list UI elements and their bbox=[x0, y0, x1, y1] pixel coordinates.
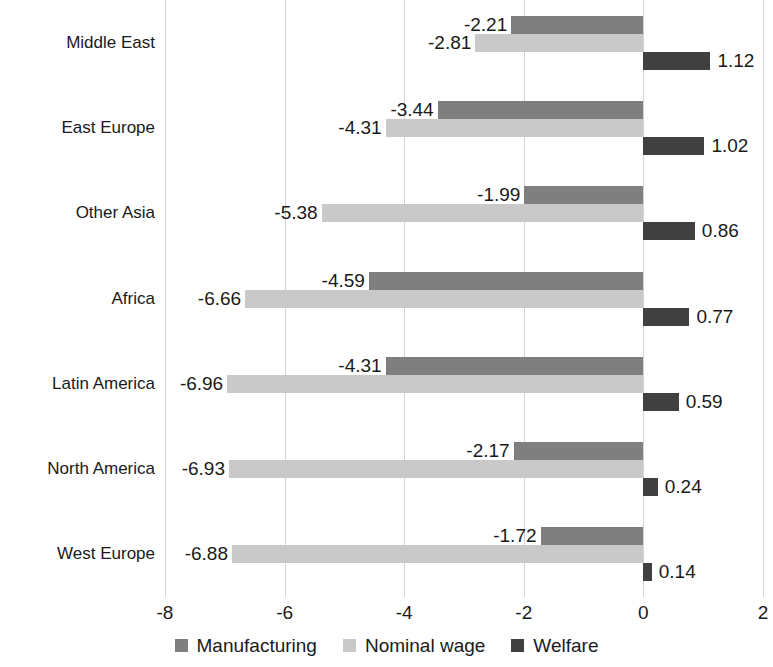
legend-swatch-icon bbox=[343, 639, 356, 652]
legend-item[interactable]: Nominal wage bbox=[343, 636, 485, 655]
x-tick-label: 2 bbox=[733, 603, 773, 622]
bar-nominal-wage bbox=[229, 460, 643, 478]
legend-label: Welfare bbox=[533, 636, 598, 655]
gridline-x-2 bbox=[763, 0, 764, 597]
bar-welfare bbox=[643, 308, 689, 326]
legend-item[interactable]: Welfare bbox=[511, 636, 598, 655]
bar-nominal-wage bbox=[232, 545, 643, 563]
category-label: Middle East bbox=[0, 34, 155, 51]
data-label: -2.21 bbox=[165, 15, 507, 34]
x-tick-label: -4 bbox=[374, 603, 434, 622]
bar-welfare bbox=[643, 137, 704, 155]
data-label: 0.24 bbox=[665, 477, 702, 496]
data-label: -6.96 bbox=[165, 374, 223, 393]
x-tick-label: 0 bbox=[613, 603, 673, 622]
category-label: West Europe bbox=[0, 545, 155, 562]
legend-swatch-icon bbox=[175, 639, 188, 652]
data-label: -6.66 bbox=[165, 289, 241, 308]
data-label: -5.38 bbox=[165, 203, 318, 222]
category-label: East Europe bbox=[0, 119, 155, 136]
legend-label: Nominal wage bbox=[365, 636, 485, 655]
bar-manufacturing bbox=[438, 101, 644, 119]
data-label: 0.59 bbox=[686, 392, 723, 411]
bar-manufacturing bbox=[386, 357, 644, 375]
bar-manufacturing bbox=[369, 272, 643, 290]
data-label: -6.88 bbox=[165, 544, 228, 563]
bar-welfare bbox=[643, 563, 651, 581]
data-label: -4.31 bbox=[165, 118, 382, 137]
bar-nominal-wage bbox=[322, 204, 644, 222]
data-label: 0.86 bbox=[702, 221, 739, 240]
legend-item[interactable]: Manufacturing bbox=[175, 636, 317, 655]
bar-manufacturing bbox=[541, 527, 644, 545]
bar-manufacturing bbox=[514, 442, 644, 460]
x-tick-label: -2 bbox=[494, 603, 554, 622]
bar-manufacturing bbox=[524, 186, 643, 204]
chart-legend: ManufacturingNominal wageWelfare bbox=[0, 630, 773, 660]
legend-swatch-icon bbox=[511, 639, 524, 652]
bar-welfare bbox=[643, 222, 694, 240]
category-label: Latin America bbox=[0, 375, 155, 392]
bar-welfare bbox=[643, 478, 657, 496]
category-label: Africa bbox=[0, 290, 155, 307]
bar-nominal-wage bbox=[475, 34, 643, 52]
data-label: -3.44 bbox=[165, 100, 434, 119]
bar-nominal-wage bbox=[245, 290, 643, 308]
bar-welfare bbox=[643, 52, 710, 70]
gridline-x-0 bbox=[643, 0, 644, 597]
x-tick-label: -8 bbox=[135, 603, 195, 622]
data-label: 0.14 bbox=[659, 562, 696, 581]
data-label: -6.93 bbox=[165, 459, 225, 478]
bar-manufacturing bbox=[511, 16, 643, 34]
data-label: -4.59 bbox=[165, 271, 365, 290]
category-label: Other Asia bbox=[0, 204, 155, 221]
category-label: North America bbox=[0, 460, 155, 477]
data-label: 1.02 bbox=[711, 136, 748, 155]
x-tick-label: -6 bbox=[255, 603, 315, 622]
legend-label: Manufacturing bbox=[197, 636, 317, 655]
data-label: -4.31 bbox=[165, 356, 382, 375]
grouped-bar-chart: -2.21-2.811.12-3.44-4.311.02-1.99-5.380.… bbox=[0, 0, 773, 667]
bar-welfare bbox=[643, 393, 678, 411]
data-label: -2.81 bbox=[165, 33, 471, 52]
plot-area: -2.21-2.811.12-3.44-4.311.02-1.99-5.380.… bbox=[165, 0, 763, 597]
data-label: 1.12 bbox=[717, 51, 754, 70]
data-label: 0.77 bbox=[696, 307, 733, 326]
bar-nominal-wage bbox=[386, 119, 644, 137]
bar-nominal-wage bbox=[227, 375, 643, 393]
data-label: -1.99 bbox=[165, 185, 520, 204]
